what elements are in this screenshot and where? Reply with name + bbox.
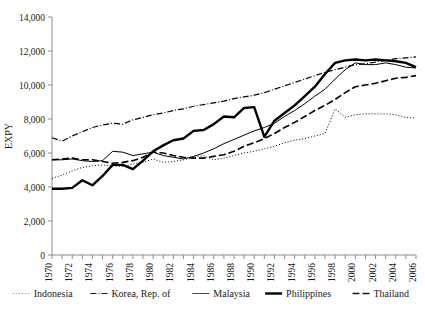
y-tick-label: 4,000 bbox=[24, 183, 46, 193]
y-tick-label: 0 bbox=[40, 251, 45, 261]
legend-item-malaysia[interactable]: Malaysia bbox=[192, 288, 250, 299]
x-tick-label: 1992 bbox=[266, 263, 276, 282]
x-tick-label: 2006 bbox=[408, 263, 418, 282]
y-axis-title: EXPY bbox=[3, 123, 14, 149]
y-tick-label: 10,000 bbox=[19, 81, 45, 91]
x-tick-label: 1986 bbox=[206, 263, 216, 282]
series-line-korea-rep-of bbox=[52, 57, 416, 141]
legend-label: Korea, Rep. of bbox=[111, 288, 171, 299]
legend-item-korea-rep-of[interactable]: Korea, Rep. of bbox=[90, 288, 171, 299]
x-tick-label: 1972 bbox=[64, 263, 74, 282]
y-tick-label: 8,000 bbox=[24, 115, 46, 125]
x-tick-label: 1996 bbox=[307, 263, 317, 282]
chart-figure: 02,0004,0006,0008,00010,00012,00014,000E… bbox=[0, 0, 425, 312]
x-tick-label: 1998 bbox=[327, 263, 337, 282]
x-tick-label: 1984 bbox=[186, 263, 196, 282]
y-tick-label: 14,000 bbox=[19, 13, 45, 23]
x-tick-label: 1974 bbox=[84, 263, 94, 282]
legend-label: Thailand bbox=[373, 288, 409, 299]
y-tick-label: 12,000 bbox=[19, 47, 45, 57]
legend-label: Philippines bbox=[286, 288, 331, 299]
series-line-thailand bbox=[52, 76, 416, 164]
legend-item-thailand[interactable]: Thailand bbox=[352, 288, 409, 299]
x-tick-label: 2002 bbox=[368, 263, 378, 282]
series-line-malaysia bbox=[52, 63, 416, 162]
x-tick-label: 1982 bbox=[165, 263, 175, 282]
legend-label: Indonesia bbox=[34, 288, 73, 299]
y-tick-label: 2,000 bbox=[24, 217, 46, 227]
x-tick-label: 1976 bbox=[105, 263, 115, 282]
x-tick-label: 1990 bbox=[246, 263, 256, 282]
chart-canvas: 02,0004,0006,0008,00010,00012,00014,000E… bbox=[0, 0, 425, 312]
x-tick-label: 1988 bbox=[226, 263, 236, 282]
x-tick-label: 2000 bbox=[347, 263, 357, 282]
x-tick-label: 2004 bbox=[388, 263, 398, 282]
series-line-indonesia bbox=[52, 109, 416, 179]
legend-label: Malaysia bbox=[213, 288, 250, 299]
legend-item-philippines[interactable]: Philippines bbox=[265, 288, 331, 299]
legend-item-indonesia[interactable]: Indonesia bbox=[13, 288, 73, 299]
x-tick-label: 1994 bbox=[287, 263, 297, 282]
x-tick-label: 1980 bbox=[145, 263, 155, 282]
x-tick-label: 1970 bbox=[44, 263, 54, 282]
x-tick-label: 1978 bbox=[125, 263, 135, 282]
y-tick-label: 6,000 bbox=[24, 149, 46, 159]
